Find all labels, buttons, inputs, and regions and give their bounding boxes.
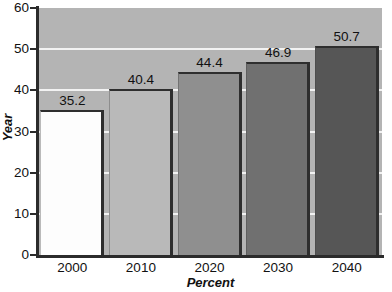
- bar: [315, 46, 379, 255]
- x-axis-line: [36, 255, 384, 258]
- y-tick-mark: [30, 213, 37, 215]
- y-tick-mark: [30, 172, 37, 174]
- y-tick-mark: [30, 131, 37, 133]
- bar-value-label: 40.4: [103, 73, 179, 87]
- y-tick-label: 40: [3, 83, 29, 97]
- y-axis-title: Year: [0, 105, 15, 151]
- bar-value-label: 46.9: [240, 46, 316, 60]
- y-tick-mark: [30, 7, 37, 9]
- x-tick-label: 2030: [240, 261, 316, 275]
- y-tick-mark: [30, 48, 37, 50]
- chart-title: [38, 0, 382, 3]
- x-tick-label: 2000: [34, 261, 110, 275]
- y-tick-label: 60: [3, 1, 29, 15]
- y-tick-mark: [30, 89, 37, 91]
- bar: [109, 89, 173, 255]
- y-tick-label: 50: [3, 42, 29, 56]
- y-tick-label: 0: [3, 248, 29, 262]
- bar-value-label: 50.7: [309, 30, 385, 44]
- x-axis-title: Percent: [39, 275, 382, 290]
- bar: [40, 110, 104, 255]
- y-tick-label: 20: [3, 166, 29, 180]
- x-tick-label: 2010: [103, 261, 179, 275]
- plot-area: [39, 8, 382, 255]
- y-tick-label: 10: [3, 207, 29, 221]
- bar: [246, 62, 310, 255]
- y-tick-mark: [30, 254, 37, 256]
- bar: [178, 72, 242, 255]
- bar-value-label: 44.4: [172, 56, 248, 70]
- x-tick-label: 2020: [172, 261, 248, 275]
- bar-chart: 0102030405060 Year 20002010202020302040 …: [0, 0, 392, 292]
- x-tick-label: 2040: [309, 261, 385, 275]
- bar-value-label: 35.2: [34, 94, 110, 108]
